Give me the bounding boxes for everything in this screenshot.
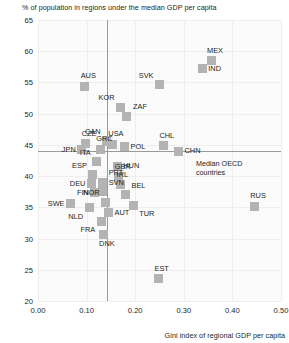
median-oecd-annotation: Median OECD countries [196, 159, 266, 177]
point-label-esp: ESP [72, 162, 87, 170]
point-label-tur: TUR [139, 210, 154, 218]
marker-nld [85, 203, 94, 212]
marker-pol [120, 142, 129, 151]
marker-ita [92, 157, 101, 166]
y-tick-label-40: 40 [9, 172, 33, 181]
point-label-pol: POL [131, 143, 146, 151]
y-tick-label-65: 65 [9, 16, 33, 25]
x-tick-label-0.40: 0.40 [217, 306, 247, 315]
marker-esp [88, 170, 97, 179]
x-tick-label-0.50: 0.50 [266, 306, 289, 315]
point-label-jpn: JPN [62, 146, 76, 154]
point-label-swe: SWE [48, 200, 65, 208]
point-label-rus: RUS [250, 192, 266, 200]
marker-fra [97, 217, 106, 226]
gridline-horizontal-0 [38, 301, 281, 302]
scatter-chart: % of population in regions under the med… [0, 0, 289, 343]
marker-dnk [99, 230, 108, 239]
median-oecd-vertical [107, 20, 108, 301]
y-axis-title: % of population in regions under the med… [22, 3, 217, 12]
marker-rus [250, 202, 259, 211]
point-label-ita: ITA [80, 149, 91, 157]
x-axis-title: Gini index of regional GDP per capita [165, 331, 285, 340]
point-label-aut: AUT [114, 209, 129, 217]
marker-prt [98, 178, 107, 187]
x-tick-label-0.10: 0.10 [72, 306, 102, 315]
median-annotation-line-1: Median OECD [196, 159, 266, 168]
marker-swe [66, 199, 75, 208]
marker-ind [198, 64, 207, 73]
point-label-deu: DEU [70, 180, 86, 188]
x-tick-label-0.20: 0.20 [120, 306, 150, 315]
y-tick-label-20: 20 [9, 297, 33, 306]
x-tick-label-0.30: 0.30 [169, 306, 199, 315]
y-tick-label-25: 25 [9, 266, 33, 275]
point-label-chl: CHL [159, 132, 174, 140]
point-label-kor: KOR [99, 94, 115, 102]
marker-kor [116, 103, 125, 112]
marker-tur [129, 201, 138, 210]
y-tick-label-30: 30 [9, 235, 33, 244]
point-label-nor: NOR [83, 189, 99, 197]
y-tick-label-55: 55 [9, 78, 33, 87]
point-label-est: EST [155, 265, 169, 273]
point-label-dnk: DNK [99, 240, 115, 248]
x-tick-label-0.00: 0.00 [23, 306, 53, 315]
marker-est [154, 274, 163, 283]
point-label-ind: IND [208, 65, 221, 73]
point-label-aus: AUS [81, 72, 96, 80]
y-tick-label-45: 45 [9, 141, 33, 150]
point-label-zaf: ZAF [133, 103, 147, 111]
marker-chn [174, 147, 183, 156]
marker-aus [80, 82, 89, 91]
marker-grc [96, 145, 105, 154]
point-label-nld: NLD [68, 213, 83, 221]
marker-chl [159, 141, 168, 150]
y-tick-label-50: 50 [9, 110, 33, 119]
point-label-mex: MEX [207, 47, 223, 55]
point-label-grc: GRC [96, 135, 112, 143]
marker-deu [87, 179, 96, 188]
marker-svk [155, 80, 164, 89]
gridline-vertical-5 [281, 20, 282, 301]
point-label-bel: BEL [131, 182, 145, 190]
point-label-svn: SVN [109, 179, 124, 187]
y-tick-label-35: 35 [9, 203, 33, 212]
marker-bel [121, 190, 130, 199]
y-tick-label-60: 60 [9, 47, 33, 56]
point-label-cze: CZE [82, 130, 97, 138]
point-label-fra: FRA [80, 226, 95, 234]
point-label-svk: SVK [139, 72, 154, 80]
marker-nor [101, 198, 110, 207]
median-annotation-line-2: countries [196, 168, 266, 177]
point-label-chn: CHN [184, 147, 200, 155]
marker-zaf [122, 112, 131, 121]
